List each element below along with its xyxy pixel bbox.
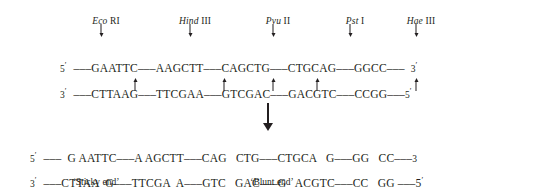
uncut-bottom-sequence: –––CTTAAG–––TTCGAA–––GTCGAC–––GACGTC–––C…: [74, 88, 406, 100]
pst-i-cut-arrow: [350, 24, 351, 33]
enzyme-genus: Pst: [346, 16, 359, 26]
enzyme-number: II: [284, 16, 291, 26]
eco-ri-cut-arrow: [101, 24, 102, 33]
enzyme-number: III: [201, 16, 211, 26]
sticky-end-caption: ‘Sticky end’: [73, 177, 120, 187]
enzyme-number: III: [425, 16, 435, 26]
digestion-arrow: [267, 103, 269, 124]
restriction-map-figure: Eco RI Hind III Pvu II Pst I Hae III 5′–…: [0, 0, 536, 195]
cut-bottom-3prime-label: 3′: [30, 179, 37, 189]
enzyme-number: RI: [110, 16, 120, 26]
uncut-top-3prime-label: 3′: [411, 64, 418, 74]
hind-iii-cut-arrow-lower: [224, 82, 225, 91]
cut-bottom-strand: 3′–––CTTAA G–––TTCGA A–––GTC GAC–––G ACG…: [14, 155, 423, 195]
uncut-bottom-strand: 3′–––CTTAAG–––TTCGAA–––GTCGAC–––GACGTC––…: [44, 66, 412, 120]
pvu-ii-cut-arrow-lower: [273, 82, 274, 91]
pvu-ii-cut-arrow: [273, 24, 274, 33]
hind-iii-cut-arrow: [190, 24, 191, 33]
hae-iii-cut-arrow-lower: [416, 82, 417, 91]
uncut-bottom-3prime-label: 3′: [60, 90, 67, 100]
enzyme-number: I: [361, 16, 364, 26]
cut-bottom-5prime-label: ′: [422, 179, 424, 189]
pst-i-cut-arrow-lower: [317, 82, 318, 91]
eco-ri-cut-arrow-lower: [135, 82, 136, 91]
uncut-bottom-5prime-label: 5′: [405, 90, 412, 100]
hae-iii-cut-arrow: [416, 24, 417, 33]
blunt-end-caption: ‘Blunt end’: [250, 177, 294, 187]
